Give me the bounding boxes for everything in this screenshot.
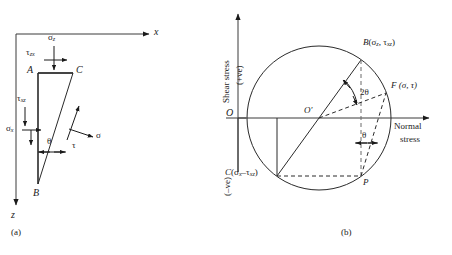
tau-xz-label: τxz — [17, 94, 26, 103]
shear-stress-positive-label: (+ve) — [235, 65, 244, 85]
vertex-c-label: C — [76, 65, 83, 75]
center-label: O′ — [304, 106, 312, 115]
sigma-normal-arrow — [69, 129, 93, 137]
axis-x-label: x — [154, 27, 158, 37]
sigma-inclined-label: σ — [96, 131, 101, 140]
theta-label: θ — [47, 137, 51, 146]
axis-z-label: z — [11, 210, 15, 220]
shear-stress-axis-title: Shear stress — [222, 60, 231, 103]
sigma-x-label: σx — [6, 124, 14, 133]
origin-label: O — [226, 108, 233, 118]
point-b-label: B(σz, τxz) — [363, 38, 395, 47]
panel-b-caption: (b) — [341, 228, 352, 237]
tau-inclined-arrow — [67, 106, 79, 140]
point-p-label: P — [363, 178, 369, 187]
shear-stress-negative-label: (–ve) — [223, 177, 232, 196]
tau-inclined-label: τ — [72, 141, 76, 150]
point-f-label: F (σ, τ) — [391, 81, 417, 90]
sigma-z-label: σz — [48, 33, 55, 42]
panel-b-mohr-circle: O O′ B(σz, τxz) C(σx–τxz) F (σ, τ) P 2θ … — [226, 0, 452, 255]
dashed-o-to-f — [319, 93, 386, 118]
angle-2theta-label: 2θ — [360, 88, 369, 97]
vertex-b-label: B — [33, 188, 39, 198]
normal-stress-axis-label: Normal — [394, 122, 422, 131]
panel-a-stress-element: x z A C B σz τzx τxz σx σ τ θ (a) — [0, 0, 226, 255]
mohr-axes — [226, 14, 429, 172]
stress-mohr-circle-figure: x z A C B σz τzx τxz σx σ τ θ (a) — [0, 0, 452, 255]
panel-a-caption: (a) — [11, 228, 21, 237]
coordinate-axes — [16, 34, 149, 205]
stress-element-triangle — [38, 73, 73, 184]
tau-zx-label: τzx — [26, 48, 35, 57]
vertex-a-label: A — [27, 65, 33, 75]
normal-stress-axis-label-line2: stress — [400, 135, 420, 144]
panel-a-drawing — [0, 0, 226, 255]
angle-2theta-marker — [343, 80, 357, 105]
angle-theta-label: θ — [362, 131, 366, 140]
